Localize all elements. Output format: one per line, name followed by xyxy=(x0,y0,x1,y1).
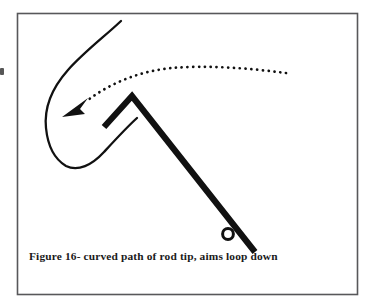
figure-caption: Figure 16- curved path of rod tip, aims … xyxy=(29,249,329,263)
rod-tip-path-arrow-curve xyxy=(88,67,286,100)
arrowhead-icon xyxy=(62,98,88,117)
rod-path xyxy=(104,96,255,252)
figure-page: Figure 16- curved path of rod tip, aims … xyxy=(0,0,383,303)
fly-line-loop-path xyxy=(46,21,137,168)
reel-icon xyxy=(223,229,234,240)
